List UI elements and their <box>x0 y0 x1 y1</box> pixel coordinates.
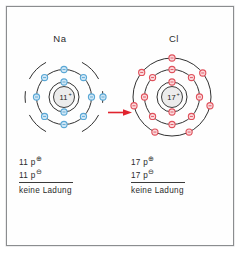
electron <box>196 94 202 100</box>
electron <box>88 94 94 100</box>
legend-divider-sodium <box>19 182 73 183</box>
electron <box>61 109 67 115</box>
legend-total-chlorine: keine Ladung <box>131 185 185 196</box>
nucleus-label: 17 <box>167 93 175 102</box>
electron <box>61 66 67 72</box>
nucleus-charge-sign: + <box>177 91 180 97</box>
figure-frame: Na 11+ 11 p⊕ 11 p⊖ keine Ladung Cl 17+ <box>6 6 234 246</box>
minus-circle-icon: ⊖ <box>36 168 42 175</box>
electron <box>186 129 192 135</box>
element-label-chlorine: Cl <box>117 33 231 44</box>
atom-chlorine: Cl 17+ 17 p⊕ 17 p⊖ keine Ladung <box>115 7 229 247</box>
electron <box>169 79 175 85</box>
shell-diagram-sodium: 11+ <box>7 45 121 149</box>
electron <box>152 129 158 135</box>
nucleus-label: 11 <box>60 93 68 102</box>
atom-sodium: Na 11+ 11 p⊕ 11 p⊖ keine Ladung <box>7 7 121 247</box>
electron <box>169 55 175 61</box>
legend-electrons-text-sodium: 11 p <box>19 171 36 180</box>
electron <box>139 69 145 75</box>
shell-diagram-chlorine: 17+ <box>115 45 229 149</box>
legend-electrons-sodium: 11 p⊖ <box>19 168 73 181</box>
electron <box>33 94 39 100</box>
legend-total-sodium: keine Ladung <box>19 185 73 196</box>
electron <box>169 66 175 72</box>
plus-circle-icon: ⊕ <box>36 155 42 162</box>
electron <box>131 103 137 109</box>
legend-protons-text-chlorine: 17 p <box>131 158 148 167</box>
electron <box>100 94 106 100</box>
electron <box>188 113 194 119</box>
electron <box>188 74 194 80</box>
electron <box>141 94 147 100</box>
legend-protons-text-sodium: 11 p <box>19 158 36 167</box>
electron <box>61 79 67 85</box>
electron <box>169 121 175 127</box>
electron <box>41 113 47 119</box>
minus-circle-icon: ⊖ <box>148 168 154 175</box>
electron <box>41 74 47 80</box>
legend-protons-sodium: 11 p⊕ <box>19 155 73 168</box>
plus-circle-icon: ⊕ <box>148 155 154 162</box>
element-label-sodium: Na <box>3 33 117 44</box>
electron <box>80 113 86 119</box>
electron <box>149 74 155 80</box>
legend-electrons-text-chlorine: 17 p <box>131 171 148 180</box>
nucleus-charge-sign: + <box>69 91 72 97</box>
electron <box>169 109 175 115</box>
electron <box>80 74 86 80</box>
legend-electrons-chlorine: 17 p⊖ <box>131 168 185 181</box>
legend-divider-chlorine <box>131 182 185 183</box>
electron <box>61 121 67 127</box>
legend-chlorine: 17 p⊕ 17 p⊖ keine Ladung <box>131 155 241 196</box>
electron <box>149 113 155 119</box>
legend-protons-chlorine: 17 p⊕ <box>131 155 185 168</box>
electron <box>200 70 206 76</box>
electron <box>207 103 213 109</box>
